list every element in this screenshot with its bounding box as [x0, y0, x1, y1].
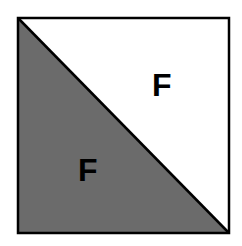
label-lower-f: F [78, 152, 98, 188]
label-upper-f: F [152, 67, 172, 103]
diagram-canvas: F F [0, 0, 242, 246]
